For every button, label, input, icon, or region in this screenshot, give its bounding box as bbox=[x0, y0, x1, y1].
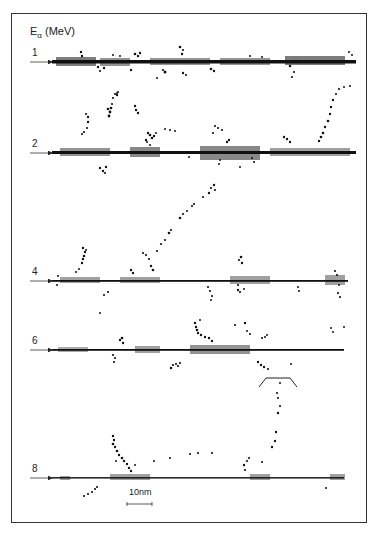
track-1 bbox=[52, 46, 356, 79]
bracket-marker bbox=[259, 378, 297, 387]
tracks-plot bbox=[0, 0, 377, 535]
scale-bar bbox=[127, 502, 152, 506]
track-6 bbox=[52, 319, 345, 370]
arrow-icon bbox=[30, 62, 52, 478]
track-8 bbox=[52, 382, 345, 497]
track-4 bbox=[52, 184, 348, 314]
track-structure-figure: Eα (MeV) 1 2 4 6 8 10nm bbox=[0, 0, 377, 535]
track-2 bbox=[52, 85, 356, 174]
